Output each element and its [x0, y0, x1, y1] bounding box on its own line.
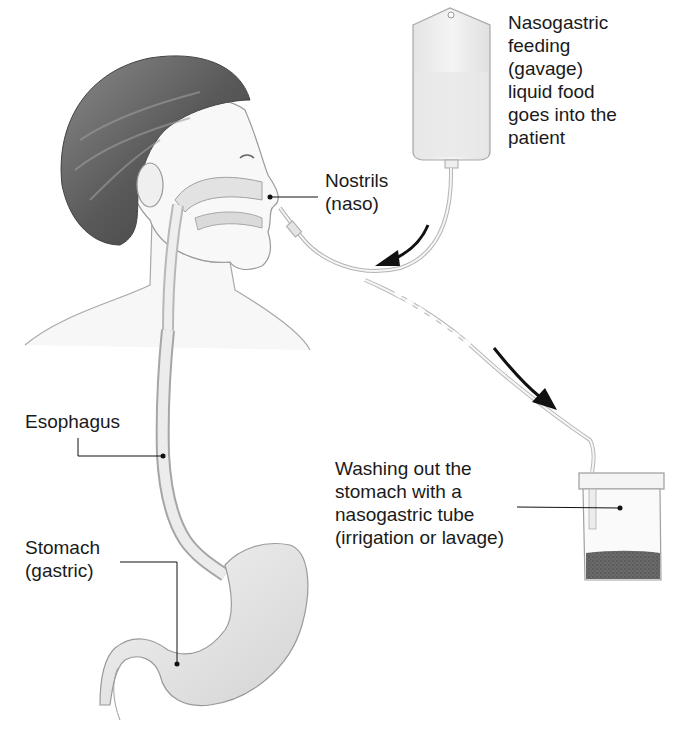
label-esophagus: Esophagus	[25, 410, 120, 433]
collection-jar	[579, 473, 664, 580]
leader-esophagus	[78, 438, 166, 459]
esophagus	[163, 330, 225, 575]
label-nasogastric-feeding: Nasogastric feeding (gavage) liquid food…	[508, 11, 617, 149]
patient-head	[61, 56, 278, 330]
label-washing-out: Washing out the stomach with a nasogastr…	[335, 457, 504, 549]
label-stomach: Stomach (gastric)	[25, 536, 100, 582]
flow-arrow-out	[494, 348, 557, 410]
feeding-bag	[413, 8, 490, 168]
stomach	[100, 544, 308, 720]
label-nostrils: Nostrils (naso)	[325, 169, 388, 215]
